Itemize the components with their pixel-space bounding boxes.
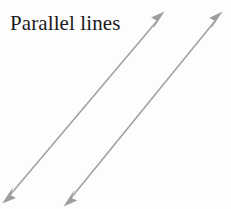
diagram-background (0, 0, 231, 209)
diagram-container: Parallel lines (0, 0, 231, 209)
diagram-canvas (0, 0, 231, 209)
